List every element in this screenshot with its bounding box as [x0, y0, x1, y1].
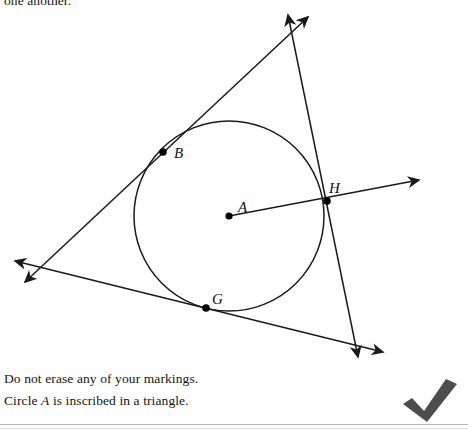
point-h — [323, 197, 331, 205]
page-divider — [0, 424, 468, 425]
caption-line-do-not-erase: Do not erase any of your markings. — [4, 368, 374, 390]
worksheet-page: one another. A B H G Do not era — [0, 0, 468, 430]
tangent-line-at-b — [25, 17, 308, 282]
caption-block: Do not erase any of your markings. Circl… — [4, 368, 374, 412]
label-b: B — [174, 145, 183, 161]
label-h: H — [328, 180, 341, 196]
geometry-figure: A B H G — [0, 0, 468, 430]
point-labels: A B H G — [174, 145, 341, 307]
point-a-center — [225, 212, 232, 219]
point-b — [159, 148, 167, 156]
label-a: A — [237, 199, 248, 215]
caption-prefix: Circle — [4, 393, 41, 408]
point-g — [202, 304, 210, 312]
marked-points — [159, 148, 331, 312]
label-g: G — [212, 291, 223, 307]
check-mark-icon — [399, 378, 461, 424]
tangent-line-at-h — [288, 15, 358, 357]
page-divider-secondary — [0, 428, 468, 429]
caption-line-circle-inscribed: Circle A is inscribed in a triangle. — [4, 390, 374, 412]
caption-suffix: is inscribed in a triangle. — [49, 393, 188, 408]
